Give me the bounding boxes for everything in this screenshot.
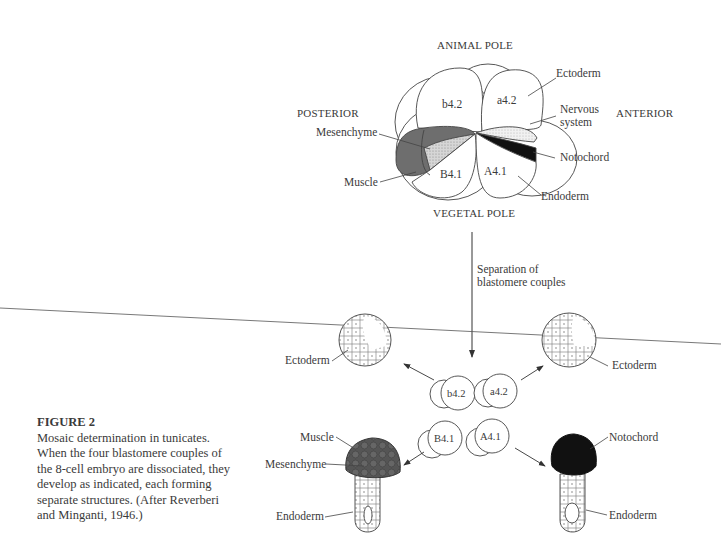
A41-outcome-endoderm: Endoderm (609, 509, 657, 522)
vegetal-pole-label: VEGETAL POLE (433, 207, 515, 220)
notochord-label: Notochord (560, 151, 609, 164)
A41-outcome-notochord: Notochord (609, 431, 658, 444)
separation-label-1: Separation of (477, 263, 539, 276)
B41-outcome-mesenchyme: Mesenchyme (265, 458, 326, 471)
eight-cell-embryo (395, 64, 577, 200)
pair-B41-label: B4.1 (434, 432, 454, 445)
anterior-label: ANTERIOR (616, 107, 673, 120)
b42-outcome-ectoderm: Ectoderm (285, 354, 330, 367)
posterior-label: POSTERIOR (297, 107, 359, 120)
blastomere-B41-label: B4.1 (440, 168, 462, 181)
pair-a42-label: a4.2 (490, 385, 508, 398)
nervous-system-label-2: system (560, 116, 592, 129)
figure-caption-text: Mosaic determination in tunicates. When … (37, 431, 230, 523)
B41-outcome-muscle: Muscle (300, 431, 334, 444)
separation-label-2: blastomere couples (477, 276, 565, 289)
mesenchyme-label: Mesenchyme (316, 126, 377, 139)
a42-ectoderm-sphere (542, 313, 596, 367)
a42-outcome-ectoderm: Ectoderm (612, 359, 657, 372)
blastomere-a42-label: a4.2 (497, 94, 516, 107)
ectoderm-label: Ectoderm (556, 67, 601, 80)
a41-larva (551, 434, 596, 532)
muscle-label: Muscle (344, 176, 378, 189)
b41-larva (346, 438, 400, 532)
figure-caption: FIGURE 2 Mosaic determination in tunicat… (37, 415, 237, 524)
nervous-system-label-1: Nervous (560, 103, 599, 116)
endoderm-label: Endoderm (541, 190, 589, 203)
B41-outcome-endoderm: Endoderm (276, 510, 324, 523)
animal-pole-label: ANIMAL POLE (437, 39, 513, 52)
figure-number: FIGURE 2 (37, 415, 237, 431)
b42-ectoderm-sphere (339, 314, 391, 366)
pair-b42-label: b4.2 (447, 387, 465, 400)
blastomere-b42-label: b4.2 (442, 98, 462, 111)
blastomere-A41-label: A4.1 (484, 165, 507, 178)
pair-A41-label: A4.1 (480, 430, 501, 443)
